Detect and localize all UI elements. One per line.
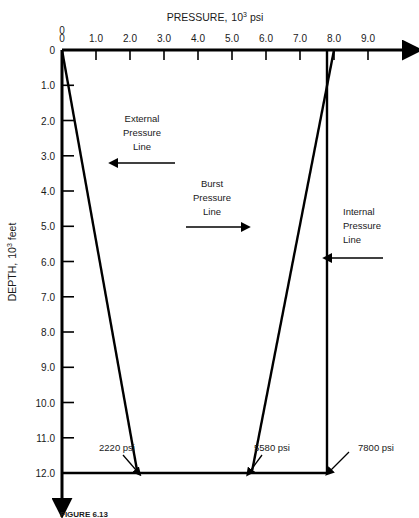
annotation-text: Internal xyxy=(343,206,375,217)
annotation-text: Pressure xyxy=(343,220,381,231)
y-tick-label: 10.0 xyxy=(36,398,56,409)
x-tick-label: 7.0 xyxy=(293,33,307,44)
x-tick-label: 3.0 xyxy=(157,33,171,44)
y-tick-label: 8.0 xyxy=(41,327,55,338)
external-pressure-annotation: External Pressure Line xyxy=(123,113,161,152)
x-axis-tick-labels: 0 1.0 2.0 3.0 4.0 5.0 6.0 7.0 8.0 9.0 xyxy=(59,33,375,44)
y-tick-label: 6.0 xyxy=(41,257,55,268)
y-tick-label: 0 xyxy=(49,45,55,56)
x-axis-title-exponent: 3 xyxy=(243,11,247,18)
x-axis-title: PRESSURE,103psi xyxy=(167,11,264,23)
x-tick-label: 2.0 xyxy=(123,33,137,44)
x-tick-label: 6.0 xyxy=(259,33,273,44)
x-tick-label: 9.0 xyxy=(361,33,375,44)
y-axis-tick-labels: 0 1.0 2.0 3.0 4.0 5.0 6.0 7.0 8.0 9.0 10… xyxy=(36,45,56,479)
origin-label: 0 xyxy=(59,25,65,36)
y-tick-label: 4.0 xyxy=(41,186,55,197)
y-tick-label: 5.0 xyxy=(41,221,55,232)
y-tick-label: 2.0 xyxy=(41,116,55,127)
y-tick-label: 3.0 xyxy=(41,151,55,162)
y-axis-ticks xyxy=(62,85,74,438)
y-axis-title-base: 10 xyxy=(6,247,18,259)
internal-pressure-annotation: Internal Pressure Line xyxy=(343,206,381,245)
annotation-text: Line xyxy=(203,206,221,217)
y-axis-title-unit: feet xyxy=(6,223,18,241)
x-axis-title-base: 10 xyxy=(231,11,243,23)
figure-caption: FIGURE 6.13 xyxy=(60,510,109,518)
annotation-text: Pressure xyxy=(123,127,161,138)
pressure-depth-chart: PRESSURE,103psi DEPTH,103feet 0 1.0 2.0 … xyxy=(0,0,419,518)
chart-svg: PRESSURE,103psi DEPTH,103feet 0 1.0 2.0 … xyxy=(0,0,419,518)
annotation-text: External xyxy=(125,113,160,124)
burst-pressure-annotation: Burst Pressure Line xyxy=(193,178,231,217)
annotation-text: Line xyxy=(343,234,361,245)
x-axis-title-unit: psi xyxy=(250,11,263,23)
x-tick-label: 5.0 xyxy=(225,33,239,44)
y-tick-label: 12.0 xyxy=(36,468,56,479)
annotation-text: Burst xyxy=(201,178,224,189)
y-tick-label: 9.0 xyxy=(41,362,55,373)
y-tick-label: 7.0 xyxy=(41,292,55,303)
internal-pressure-value: 7800 psi xyxy=(358,442,394,453)
y-tick-label: 11.0 xyxy=(36,433,55,444)
x-tick-label: 1.0 xyxy=(89,33,103,44)
annotation-text: Pressure xyxy=(193,192,231,203)
burst-pressure-line xyxy=(252,50,334,473)
annotation-text: Line xyxy=(133,141,151,152)
y-axis-title-main: DEPTH, xyxy=(6,263,18,302)
burst-pressure-value: 5580 psi xyxy=(254,442,290,453)
y-axis-title-exponent: 3 xyxy=(6,243,13,247)
internal-value-arrow xyxy=(331,452,349,470)
x-axis-title-main: PRESSURE, xyxy=(167,11,228,23)
x-tick-label: 8.0 xyxy=(327,33,341,44)
y-axis-title: DEPTH,103feet xyxy=(6,223,18,302)
external-pressure-value: 2220 psi xyxy=(99,442,135,453)
x-tick-label: 4.0 xyxy=(191,33,205,44)
y-tick-label: 1.0 xyxy=(41,80,55,91)
